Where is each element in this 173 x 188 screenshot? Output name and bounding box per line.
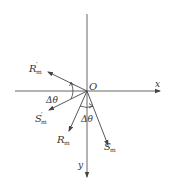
angle-arc-left	[70, 82, 74, 99]
label-s-m: S m	[104, 141, 116, 153]
label-s-m-sub: m	[110, 146, 116, 153]
y-axis-label: y	[77, 160, 84, 170]
vector-r-prime-m	[48, 72, 87, 91]
label-r-prime-m-sub: m	[36, 68, 42, 75]
label-s-prime-m: S ′ m	[35, 111, 47, 125]
label-r-m: R m	[56, 134, 70, 146]
label-r-prime-m: R ′ m	[28, 61, 42, 75]
angle-label-left: Δθ	[45, 95, 58, 105]
label-s-prime-m-sub: m	[41, 118, 47, 125]
vector-diagram: O x y R ′ m S ′ m R m S m Δθ Δθ	[0, 0, 173, 188]
angle-label-bottom: Δθ	[80, 114, 93, 124]
label-r-m-sub: m	[64, 139, 70, 146]
angle-arc-bottom	[80, 104, 93, 109]
x-axis-label: x	[155, 79, 160, 89]
origin-label: O	[89, 81, 97, 92]
